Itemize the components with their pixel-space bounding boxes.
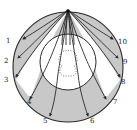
projection-diagram: 1 2 3 4 5 6 7 8 9 10 (0, 0, 137, 130)
label-6: 6 (90, 117, 95, 125)
label-4: 4 (27, 98, 32, 106)
label-8: 8 (121, 78, 125, 86)
label-5: 5 (43, 117, 47, 125)
label-3: 3 (4, 76, 8, 84)
apex-point (66, 9, 70, 13)
label-1: 1 (6, 37, 10, 45)
label-9: 9 (123, 58, 127, 66)
label-10: 10 (118, 38, 127, 46)
label-7: 7 (113, 98, 117, 106)
label-2: 2 (4, 57, 8, 65)
